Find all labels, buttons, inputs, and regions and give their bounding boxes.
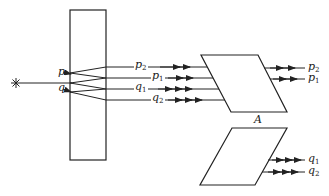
plate	[70, 10, 106, 160]
entry-label-p: p	[57, 66, 66, 77]
entry-label-q: q	[57, 82, 66, 93]
ray-label-q1: q1	[134, 81, 148, 94]
prism-label-A: A	[254, 113, 262, 126]
prism-lower	[200, 128, 287, 185]
ray-label-q2: q2	[151, 92, 165, 105]
output-label-q2: q2	[307, 165, 321, 178]
internal-rays	[70, 67, 106, 100]
prism-upper-A	[201, 55, 287, 112]
ray-label-p2: p2	[134, 59, 148, 72]
ray-label-p1: p1	[151, 70, 165, 83]
output-label-p1: p1	[307, 72, 321, 85]
light-source-star-icon	[11, 78, 21, 88]
